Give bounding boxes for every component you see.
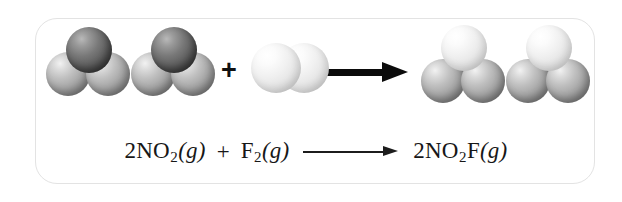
- product-no2f-symbol: 2NO: [413, 138, 458, 163]
- molecule-no2f-1: nitryl-fluoride-molecule-1: [421, 25, 507, 117]
- equation-plus-operator: +: [217, 139, 230, 165]
- plus-operator: +: [216, 55, 242, 85]
- molecule-no2f-2-label: nitryl-fluoride-molecule-2: [506, 25, 507, 26]
- equation-product-no2f: 2NO2F(g): [413, 138, 507, 167]
- product-no2f-subscript: 2: [459, 149, 467, 165]
- reactant-no2-symbol: 2NO: [125, 138, 170, 163]
- product-no2f-symbol-tail: F: [467, 138, 480, 163]
- reaction-arrow-icon: [324, 61, 410, 83]
- chemical-equation: 2NO2(g) + F2(g) 2NO2F(g): [36, 129, 596, 175]
- reaction-model-row: nitrogen-dioxide-molecule-1 nitrogen-dio…: [36, 25, 596, 125]
- molecule-no2-2: nitrogen-dioxide-molecule-2: [131, 25, 217, 117]
- product-no2f-state: (g): [480, 138, 507, 163]
- arrow-head: [382, 62, 408, 82]
- arrow-shaft: [324, 69, 386, 76]
- nitrogen-atom-sphere: [151, 27, 197, 73]
- molecule-f2-label: fluorine-molecule: [251, 43, 252, 44]
- molecule-no2-1-label: nitrogen-dioxide-molecule-1: [46, 25, 47, 26]
- fluorine-atom-sphere: [251, 43, 301, 93]
- molecule-no2-1: nitrogen-dioxide-molecule-1: [46, 25, 132, 117]
- equation-reactant-f2: F2(g): [241, 138, 290, 167]
- reactant-f2-symbol: F: [241, 138, 254, 163]
- reactant-no2-state: (g): [178, 138, 205, 163]
- reaction-figure-panel: nitrogen-dioxide-molecule-1 nitrogen-dio…: [35, 18, 595, 184]
- equation-arrow-head: [383, 146, 398, 156]
- fluorine-atom-sphere: [441, 25, 487, 71]
- reactant-f2-subscript: 2: [254, 149, 262, 165]
- molecule-f2: fluorine-molecule: [251, 43, 329, 95]
- reactant-f2-state: (g): [262, 138, 289, 163]
- nitrogen-atom-sphere: [66, 27, 112, 73]
- equation-arrow-shaft: [303, 151, 389, 153]
- fluorine-atom-sphere: [526, 25, 572, 71]
- molecule-no2f-2: nitryl-fluoride-molecule-2: [506, 25, 592, 117]
- reactant-no2-subscript: 2: [170, 149, 178, 165]
- equation-arrow-icon: [303, 142, 399, 162]
- molecule-no2f-1-label: nitryl-fluoride-molecule-1: [421, 25, 422, 26]
- molecule-no2-2-label: nitrogen-dioxide-molecule-2: [131, 25, 132, 26]
- equation-reactant-no2: 2NO2(g): [125, 138, 206, 167]
